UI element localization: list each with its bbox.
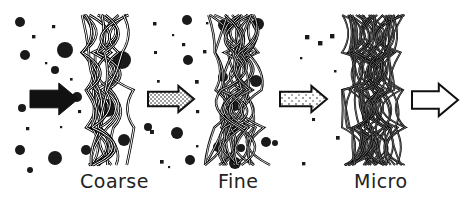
particle-small: [336, 136, 340, 140]
particle-small: [157, 80, 160, 83]
particle-large: [48, 151, 62, 165]
particle-small: [300, 57, 302, 59]
particle-large: [18, 104, 26, 112]
particle-small: [45, 62, 47, 64]
particle-small: [318, 41, 322, 45]
particle-large: [185, 155, 195, 165]
arrow-input: [30, 83, 78, 115]
particle-small: [78, 110, 81, 113]
particle-small: [206, 22, 208, 24]
stage-label-fine: Fine: [218, 170, 259, 192]
particle-small: [150, 130, 154, 134]
particle-small: [32, 35, 35, 38]
particle-small: [26, 127, 29, 130]
particle-small: [196, 145, 198, 147]
particle-large: [171, 127, 183, 139]
particle-large: [182, 15, 192, 25]
particle-small: [160, 160, 164, 164]
particle-small: [172, 34, 174, 36]
filter-fine: [205, 15, 270, 165]
particle-large: [57, 42, 73, 58]
particle-small: [60, 126, 62, 128]
particle-large: [15, 145, 25, 155]
particle-large: [237, 144, 245, 152]
particle-large: [118, 134, 130, 146]
particle-small: [203, 50, 206, 53]
stage-label-coarse: Coarse: [80, 170, 149, 192]
particle-small: [312, 118, 315, 121]
particle-small: [334, 70, 336, 72]
particle-large: [272, 140, 278, 146]
particle-small: [153, 22, 156, 25]
stage-label-micro: Micro: [354, 170, 408, 192]
arrow-after-fine: [280, 86, 327, 112]
particle-small: [302, 162, 305, 165]
particle-large: [20, 50, 30, 60]
particle-small: [154, 51, 157, 54]
particle-small: [168, 166, 170, 168]
particle-small: [182, 43, 185, 46]
particle-large: [15, 17, 25, 27]
particle-large: [27, 167, 33, 173]
particle-small: [196, 110, 199, 113]
arrow-after-coarse: [148, 86, 194, 112]
particle-large: [51, 66, 59, 74]
particle-small: [70, 78, 73, 81]
particle-small: [330, 34, 334, 38]
particle-large: [144, 123, 152, 131]
particle-small: [195, 80, 199, 84]
particle-large: [183, 55, 193, 65]
particle-large: [261, 137, 271, 147]
filter-micro: [342, 15, 406, 165]
filter-media: [82, 15, 406, 165]
particle-small: [305, 35, 309, 39]
arrow-output: [412, 84, 458, 116]
particle-large: [81, 145, 91, 155]
particle-small: [52, 25, 55, 28]
